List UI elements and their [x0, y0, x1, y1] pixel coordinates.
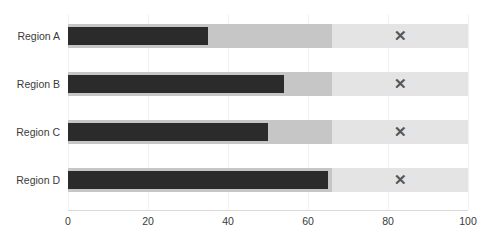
gridline-100: [468, 14, 469, 210]
target-marker-icon: ✕: [391, 120, 409, 144]
bullet-row: ✕: [68, 168, 468, 192]
category-label: Region D: [0, 168, 60, 192]
plot-area: ✕✕✕✕: [68, 14, 468, 210]
bullet-row: ✕: [68, 72, 468, 96]
x-axis-line: [68, 210, 468, 211]
category-label: Region B: [0, 72, 60, 96]
bullet-chart: ✕✕✕✕ Region ARegion BRegion CRegion D 02…: [0, 0, 480, 250]
measure-bar: [68, 27, 208, 45]
target-marker-icon: ✕: [391, 168, 409, 192]
measure-bar: [68, 123, 268, 141]
bullet-row: ✕: [68, 120, 468, 144]
x-tick-label: 100: [448, 215, 480, 227]
x-tick-label: 20: [128, 215, 168, 227]
x-tick-label: 0: [48, 215, 88, 227]
category-label: Region C: [0, 120, 60, 144]
category-label: Region A: [0, 24, 60, 48]
bullet-row: ✕: [68, 24, 468, 48]
x-tick-label: 40: [208, 215, 248, 227]
chart-title: [62, 0, 422, 5]
measure-bar: [68, 171, 328, 189]
target-marker-icon: ✕: [391, 24, 409, 48]
target-marker-icon: ✕: [391, 72, 409, 96]
x-tick-label: 80: [368, 215, 408, 227]
measure-bar: [68, 75, 284, 93]
x-tick-label: 60: [288, 215, 328, 227]
